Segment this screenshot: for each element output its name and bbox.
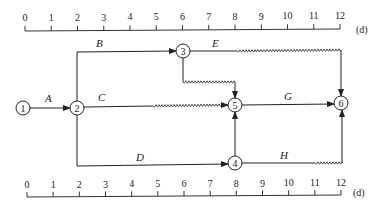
axis-tick-label: 5 bbox=[155, 178, 160, 189]
node-1: 1 bbox=[16, 101, 30, 115]
axis-tick-label: 9 bbox=[260, 178, 265, 189]
activity-d: D bbox=[77, 115, 228, 166]
activity-e-label: E bbox=[211, 37, 219, 49]
activity-a: A bbox=[30, 92, 70, 108]
bottom-axis-unit: (d) bbox=[353, 187, 365, 199]
activity-g: G bbox=[242, 90, 334, 105]
axis-tick-label: 6 bbox=[182, 178, 187, 189]
node-2-label: 2 bbox=[75, 103, 80, 114]
activity-g-label: G bbox=[284, 90, 292, 102]
axis-tick-label: 0 bbox=[23, 12, 28, 23]
bottom-time-axis: 0123456789101112 (d) bbox=[25, 177, 365, 199]
node-5-label: 5 bbox=[233, 100, 238, 111]
axis-tick-label: 12 bbox=[335, 10, 345, 21]
axis-tick-label: 4 bbox=[128, 11, 133, 22]
axis-tick-label: 8 bbox=[234, 178, 239, 189]
dummy-3-5 bbox=[183, 58, 235, 98]
node-2: 2 bbox=[70, 101, 84, 115]
axis-tick-label: 11 bbox=[309, 10, 319, 21]
axis-tick-label: 1 bbox=[49, 12, 54, 23]
activity-e: E bbox=[190, 37, 341, 96]
node-1-label: 1 bbox=[21, 103, 26, 114]
top-axis-unit: (d) bbox=[356, 24, 368, 36]
axis-tick-label: 10 bbox=[284, 177, 294, 188]
axis-tick-label: 7 bbox=[206, 11, 211, 22]
node-6: 6 bbox=[334, 96, 348, 110]
activity-c-label: C bbox=[98, 91, 106, 103]
top-time-axis: 0123456789101112 (d) bbox=[23, 10, 368, 36]
node-4: 4 bbox=[228, 156, 242, 170]
axis-tick-label: 4 bbox=[129, 178, 134, 189]
node-6-label: 6 bbox=[339, 98, 344, 109]
activity-h-label: H bbox=[279, 149, 289, 161]
node-3-label: 3 bbox=[181, 46, 186, 57]
activity-d-label: D bbox=[135, 151, 144, 163]
activity-b-label: B bbox=[96, 37, 103, 49]
node-3: 3 bbox=[176, 44, 190, 58]
node-4-label: 4 bbox=[233, 158, 238, 169]
activity-h: H bbox=[242, 110, 342, 164]
node-5: 5 bbox=[228, 98, 242, 112]
activity-a-label: A bbox=[44, 92, 52, 104]
axis-tick-label: 9 bbox=[259, 11, 264, 22]
axis-tick-label: 3 bbox=[101, 12, 106, 23]
axis-tick-label: 2 bbox=[77, 179, 82, 190]
axis-tick-label: 12 bbox=[336, 177, 346, 188]
axis-tick-label: 5 bbox=[154, 11, 159, 22]
axis-tick-label: 0 bbox=[25, 179, 30, 190]
axis-tick-label: 1 bbox=[51, 179, 56, 190]
axis-tick-label: 8 bbox=[233, 11, 238, 22]
axis-tick-label: 2 bbox=[75, 12, 80, 23]
axis-tick-label: 3 bbox=[103, 179, 108, 190]
axis-tick-label: 7 bbox=[208, 178, 213, 189]
network-diagram: 0123456789101112 (d) 0123456789101112 (d… bbox=[0, 0, 383, 210]
axis-tick-label: 10 bbox=[283, 10, 293, 21]
axis-tick-label: 11 bbox=[310, 177, 320, 188]
activity-c: C bbox=[84, 91, 228, 107]
activity-b: B bbox=[77, 37, 176, 101]
axis-tick-label: 6 bbox=[180, 11, 185, 22]
